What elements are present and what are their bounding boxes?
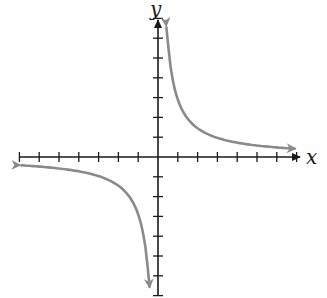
axes	[20, 20, 300, 295]
x-axis-label: x	[306, 145, 317, 169]
curve-branch-upper	[166, 26, 295, 148]
curve-branch-lower	[20, 165, 149, 287]
graph-canvas: x y	[0, 0, 327, 298]
y-axis-label: y	[149, 0, 162, 21]
